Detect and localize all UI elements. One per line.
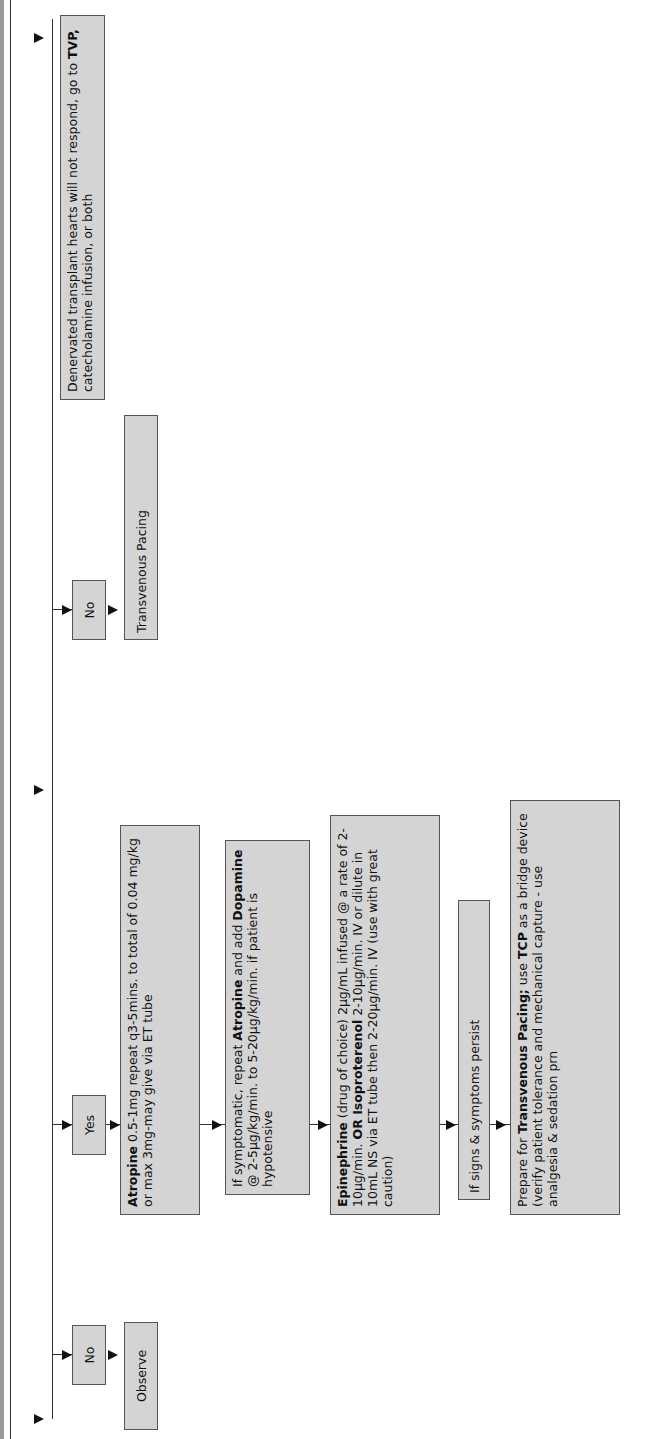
flowchart-canvas: No Observe Yes Atropine 0.5-1mg repeat q… bbox=[0, 0, 655, 1439]
incoming-arrow-right bbox=[34, 33, 44, 43]
arrow-icon bbox=[446, 1120, 456, 1130]
arrow-icon bbox=[212, 1120, 222, 1130]
denervated-note-box: Denervated transplant hearts will not re… bbox=[60, 15, 105, 400]
arrow-icon bbox=[318, 1120, 328, 1130]
arrow-icon bbox=[108, 1350, 118, 1360]
arrow-icon bbox=[62, 605, 72, 615]
arrow-icon bbox=[62, 1120, 72, 1130]
arrow-icon bbox=[496, 1120, 506, 1130]
arrow-icon bbox=[110, 1120, 120, 1130]
epinephrine-box: Epinephrine (drug of choice) 2µg/mL infu… bbox=[330, 815, 440, 1215]
no-box-left: No bbox=[72, 1325, 106, 1385]
spine-line bbox=[52, 19, 53, 1419]
incoming-arrow-mid bbox=[34, 785, 44, 795]
transvenous-pacing-box: Transvenous Pacing bbox=[124, 415, 158, 640]
incoming-arrow-left bbox=[34, 1414, 44, 1424]
header-bar bbox=[0, 0, 4, 1439]
yes-box: Yes bbox=[72, 1095, 106, 1155]
arrow-icon bbox=[108, 605, 118, 615]
tcp-box: Prepare for Transvenous Pacing; use TCP … bbox=[510, 800, 620, 1215]
observe-box: Observe bbox=[124, 1322, 158, 1430]
arrow-icon bbox=[62, 1350, 72, 1360]
header-rule bbox=[10, 0, 11, 1439]
signs-persist-box: If signs & symptoms persist bbox=[458, 900, 490, 1200]
atropine-box: Atropine 0.5-1mg repeat q3-5mins. to tot… bbox=[120, 825, 200, 1215]
no-box-mid: No bbox=[72, 580, 106, 640]
dopamine-box: If symptomatic, repeat Atropine and add … bbox=[225, 840, 310, 1195]
